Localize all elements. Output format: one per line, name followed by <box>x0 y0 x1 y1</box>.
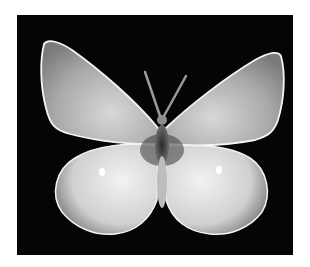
right-antenna <box>164 76 186 116</box>
left-antenna <box>145 72 160 116</box>
butterfly-head <box>157 115 167 125</box>
right-forewing <box>166 53 284 145</box>
left-forewing <box>41 41 158 144</box>
butterfly-abdomen <box>157 156 167 208</box>
butterfly-photo <box>0 0 310 267</box>
left-hindwing <box>56 144 158 234</box>
right-hindwing <box>166 145 267 234</box>
left-wing-spot <box>99 168 105 176</box>
right-wing-spot <box>216 166 222 174</box>
